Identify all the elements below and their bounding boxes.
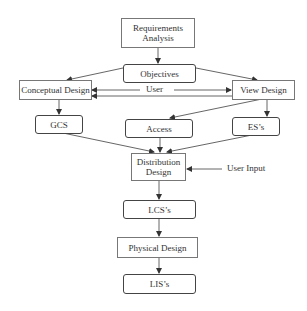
gcs-box: GCS <box>35 115 83 134</box>
conceptual-design-box: Conceptual Design <box>19 80 92 100</box>
requirements-analysis-box: Requirements Analysis <box>121 18 195 48</box>
objectives-box: Objectives <box>123 64 196 83</box>
ess-box: ES’s <box>232 117 280 136</box>
lcss-box: LCS’s <box>123 200 196 219</box>
edge-objectives-view <box>196 68 257 80</box>
user-input-label: User Input <box>227 163 265 173</box>
physical-design-box: Physical Design <box>117 237 198 258</box>
edge-view-access <box>170 99 262 118</box>
access-box: Access <box>125 119 193 138</box>
distribution-design-box: Distribution Design <box>131 153 186 181</box>
user-label: User <box>143 84 166 94</box>
edge-objectives-conceptual <box>67 68 123 80</box>
liss-box: LIS’s <box>123 274 196 294</box>
view-design-box: View Design <box>232 80 295 100</box>
